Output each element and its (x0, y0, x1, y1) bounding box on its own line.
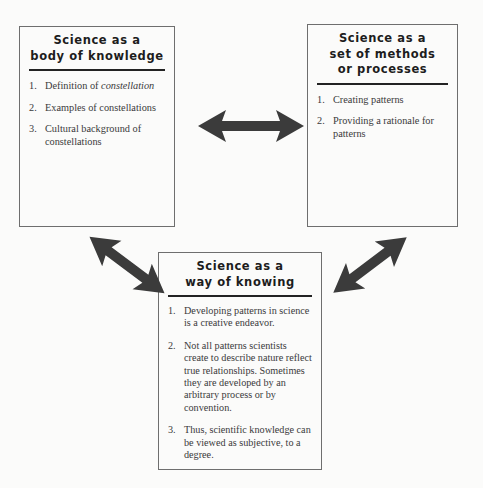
science-framework-diagram: Science as a body of knowledge 1. Defini… (0, 0, 483, 488)
box-title-methods: Science as a set of methods or processes (308, 25, 457, 78)
list-item: 2. Not all patterns scientists create to… (167, 340, 313, 414)
box-science-as-body-of-knowledge[interactable]: Science as a body of knowledge 1. Defini… (19, 26, 175, 227)
box-title-line: set of methods (308, 47, 457, 63)
list-item-text: Thus, scientific knowledge can be viewed… (184, 424, 313, 461)
list-item: 3. Thus, scientific knowledge can be vie… (167, 424, 313, 461)
box-title-knowing: Science as a way of knowing (159, 253, 321, 290)
box-title-line: or processes (308, 62, 457, 78)
box-title-knowledge: Science as a body of knowledge (20, 27, 174, 64)
list-item-text: Creating patterns (333, 94, 449, 107)
list-item-text: Providing a rationale for patterns (333, 115, 449, 140)
list-item-number: 1. (317, 94, 331, 107)
list-item-text: Developing patterns in science is a crea… (184, 305, 313, 330)
list-item-number: 3. (29, 123, 43, 136)
list-item-text: Cultural background of constellations (45, 123, 166, 148)
list-item-text-before: Definition of (45, 80, 101, 91)
list-item-number: 1. (168, 305, 182, 317)
list-item: 1. Creating patterns (316, 94, 449, 107)
list-knowledge: 1. Definition of constellation 2. Exampl… (20, 71, 174, 148)
box-title-line: Science as a (308, 31, 457, 47)
list-item: 2. Examples of constellations (28, 102, 166, 115)
list-item-text: Not all patterns scientists create to de… (184, 340, 313, 414)
list-knowing: 1. Developing patterns in science is a c… (159, 297, 321, 461)
box-title-line: body of knowledge (20, 49, 174, 65)
list-item-text-italic: constellation (101, 80, 154, 91)
box-title-line: way of knowing (159, 275, 321, 291)
box-title-line: Science as a (159, 259, 321, 275)
list-item: 3. Cultural background of constellations (28, 123, 166, 148)
box-science-as-way-of-knowing[interactable]: Science as a way of knowing 1. Developin… (158, 252, 322, 470)
list-item-text: Definition of constellation (45, 80, 166, 93)
list-item-number: 2. (317, 115, 331, 128)
list-item-text: Examples of constellations (45, 102, 166, 115)
double-headed-arrow-diagonal-down-left-icon (322, 228, 418, 302)
list-item: 2. Providing a rationale for patterns (316, 115, 449, 140)
list-item: 1. Developing patterns in science is a c… (167, 305, 313, 330)
list-item: 1. Definition of constellation (28, 80, 166, 93)
box-science-as-set-of-methods[interactable]: Science as a set of methods or processes… (307, 24, 458, 227)
double-headed-arrow-horizontal-icon (196, 105, 306, 147)
list-methods: 1. Creating patterns 2. Providing a rati… (308, 85, 457, 141)
list-item-number: 1. (29, 80, 43, 93)
list-item-number: 2. (168, 340, 182, 352)
list-item-number: 3. (168, 424, 182, 436)
box-title-line: Science as a (20, 33, 174, 49)
list-item-number: 2. (29, 102, 43, 115)
